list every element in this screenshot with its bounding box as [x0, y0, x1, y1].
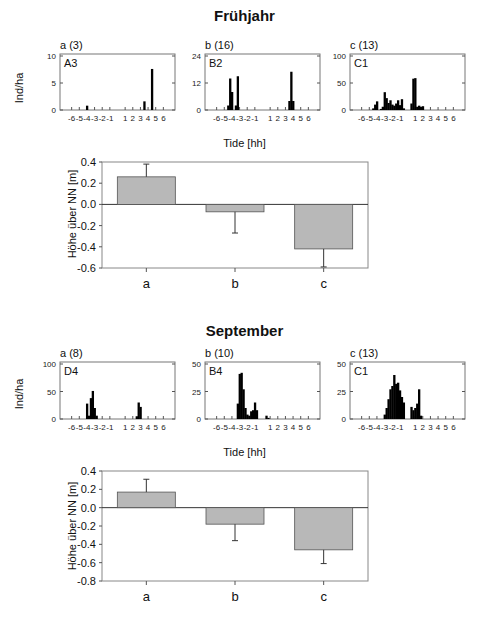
category-label: a: [143, 589, 151, 604]
svg-text:0: 0: [197, 415, 202, 424]
svg-text:12: 12: [192, 79, 201, 88]
svg-text:24: 24: [192, 52, 201, 61]
hist-bar: [267, 418, 269, 419]
elevation-bar: [206, 204, 264, 211]
svg-text:2: 2: [421, 114, 426, 123]
svg-text:4: 4: [146, 114, 151, 123]
station-label: C1: [354, 365, 368, 377]
svg-text:4: 4: [291, 114, 296, 123]
svg-text:6: 6: [161, 114, 166, 123]
category-label: b: [231, 589, 238, 604]
svg-text:5: 5: [153, 114, 158, 123]
svg-text:0: 0: [52, 106, 57, 115]
svg-text:2: 2: [131, 114, 136, 123]
svg-text:-1: -1: [251, 423, 259, 432]
svg-text:2: 2: [276, 114, 281, 123]
svg-text:5: 5: [52, 79, 57, 88]
svg-text:6: 6: [451, 423, 456, 432]
svg-text:0: 0: [52, 415, 57, 424]
panel-label: c (13): [350, 39, 378, 51]
elevation-bar: [117, 492, 175, 508]
svg-text:5: 5: [298, 114, 303, 123]
svg-text:-0.8: -0.8: [77, 575, 96, 587]
svg-text:1: 1: [123, 423, 128, 432]
category-label: c: [320, 589, 327, 604]
svg-text:-0.2: -0.2: [77, 220, 96, 232]
svg-text:-2: -2: [244, 114, 252, 123]
hist-bar: [420, 416, 422, 419]
svg-text:-3: -3: [91, 114, 99, 123]
elevation-bar: [117, 177, 175, 205]
svg-text:-2: -2: [244, 423, 252, 432]
svg-text:-2: -2: [389, 114, 397, 123]
hist-bar: [96, 416, 98, 419]
svg-text:1: 1: [413, 423, 418, 432]
svg-text:-3: -3: [381, 423, 389, 432]
svg-text:-4: -4: [373, 423, 381, 432]
svg-text:-3: -3: [236, 114, 244, 123]
svg-text:4: 4: [436, 114, 441, 123]
svg-text:0: 0: [342, 106, 347, 115]
svg-text:-4: -4: [228, 423, 236, 432]
svg-text:-1: -1: [396, 114, 404, 123]
hist-bar: [139, 407, 141, 419]
station-label: D4: [64, 365, 78, 377]
svg-text:-6: -6: [213, 114, 221, 123]
svg-text:5: 5: [443, 114, 448, 123]
svg-text:-6: -6: [68, 114, 76, 123]
category-label: a: [143, 276, 151, 291]
svg-text:2: 2: [131, 423, 136, 432]
svg-text:50: 50: [192, 360, 201, 369]
svg-text:-5: -5: [221, 423, 229, 432]
hist-bar: [231, 92, 233, 110]
svg-text:0: 0: [197, 106, 202, 115]
svg-text:10: 10: [47, 52, 56, 61]
svg-text:3: 3: [428, 423, 433, 432]
svg-text:50: 50: [337, 79, 346, 88]
hist-bar: [151, 69, 153, 110]
hist-bar: [86, 106, 88, 110]
svg-text:-0.4: -0.4: [77, 241, 96, 253]
svg-text:2: 2: [421, 423, 426, 432]
svg-text:0.4: 0.4: [81, 156, 96, 168]
svg-text:-4: -4: [228, 114, 236, 123]
svg-text:-4: -4: [83, 423, 91, 432]
elevation-bar: [206, 508, 264, 524]
category-label: c: [320, 276, 327, 291]
svg-text:-1: -1: [106, 423, 114, 432]
svg-text:-0.6: -0.6: [77, 262, 96, 274]
svg-text:-1: -1: [106, 114, 114, 123]
svg-text:50: 50: [47, 388, 56, 397]
svg-text:0.0: 0.0: [81, 198, 96, 210]
svg-text:-4: -4: [373, 114, 381, 123]
svg-text:6: 6: [306, 423, 311, 432]
charts-canvas: 0510-6-5-4-3-2-1123456A3a (3)01224-6-5-4…: [0, 0, 489, 618]
station-label: A3: [64, 57, 77, 69]
svg-text:2: 2: [276, 423, 281, 432]
svg-text:6: 6: [306, 114, 311, 123]
svg-text:3: 3: [138, 423, 143, 432]
svg-text:4: 4: [146, 423, 151, 432]
svg-text:100: 100: [43, 360, 57, 369]
svg-text:1: 1: [123, 114, 128, 123]
svg-text:-5: -5: [366, 423, 374, 432]
svg-text:-6: -6: [68, 423, 76, 432]
svg-text:-1: -1: [251, 114, 259, 123]
svg-text:100: 100: [333, 52, 347, 61]
category-label: b: [231, 276, 238, 291]
elevation-bar: [295, 508, 353, 550]
svg-text:0.0: 0.0: [81, 502, 96, 514]
panel-label: a (8): [60, 347, 83, 359]
svg-text:-5: -5: [76, 423, 84, 432]
elevation-bar: [295, 204, 353, 249]
hist-bar: [418, 389, 420, 419]
hist-bar: [143, 101, 145, 110]
svg-text:-5: -5: [366, 114, 374, 123]
svg-text:-3: -3: [381, 114, 389, 123]
station-label: B2: [209, 57, 222, 69]
svg-text:3: 3: [283, 114, 288, 123]
panel-label: a (3): [60, 39, 83, 51]
hist-bar: [403, 403, 405, 420]
svg-text:-1: -1: [396, 423, 404, 432]
svg-text:1: 1: [268, 423, 273, 432]
